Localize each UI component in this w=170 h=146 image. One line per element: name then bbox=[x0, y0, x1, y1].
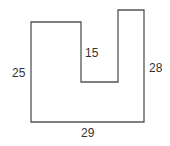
u-shape-outline bbox=[31, 10, 144, 122]
label-right-side: 28 bbox=[149, 61, 163, 75]
diagram-canvas: 25 15 28 29 bbox=[0, 0, 170, 146]
label-notch-depth: 15 bbox=[85, 46, 99, 60]
label-left-side: 25 bbox=[12, 66, 26, 80]
label-bottom: 29 bbox=[81, 126, 95, 140]
